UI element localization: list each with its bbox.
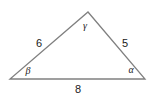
side-label-left: 6 xyxy=(36,38,42,49)
side-label-base: 8 xyxy=(75,84,81,95)
angle-label-beta: β xyxy=(26,66,31,76)
angle-label-alpha: α xyxy=(128,65,133,75)
side-label-right: 5 xyxy=(122,38,128,49)
angle-label-gamma: γ xyxy=(83,21,87,31)
triangle-figure: 6 5 8 β α γ xyxy=(0,0,159,97)
